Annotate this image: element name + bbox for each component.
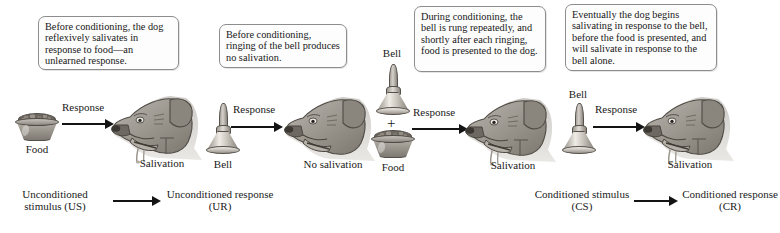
dog-head-icon-2 xyxy=(281,93,377,165)
bowl-rim xyxy=(15,118,59,126)
hand-bell-icon-3 xyxy=(376,64,410,116)
arrow-shaft xyxy=(62,123,105,125)
callout-box-2: Before conditioning, ringing of the bell… xyxy=(219,24,347,68)
bowl-rim xyxy=(371,135,415,143)
panel-3-stimulus-label-top: Bell xyxy=(383,47,401,59)
dog-head-salivating-icon-4 xyxy=(640,93,736,165)
panel-3-response-arrow xyxy=(412,124,468,134)
panel-2-stimulus-label: Bell xyxy=(214,158,232,170)
panel-1-response-arrow xyxy=(62,119,114,129)
arrow-shaft xyxy=(412,128,459,130)
callout-text-3: During conditioning, the bell is rung re… xyxy=(421,11,538,56)
panel-3-stimulus-label-bottom: Food xyxy=(382,161,405,173)
panel-4-response-arrow xyxy=(593,122,645,132)
bell-lip xyxy=(206,146,240,154)
dog-head-salivating-icon-1 xyxy=(108,92,204,164)
panel-4-outcome-label: Salivation xyxy=(668,158,713,170)
summary-unconditioned-arrow xyxy=(113,196,161,206)
hand-bell-icon-4 xyxy=(562,103,596,155)
callout-text-2: Before conditioning, ringing of the bell… xyxy=(226,29,340,63)
callout-box-1: Before conditioning, the dog reflexively… xyxy=(38,16,179,70)
arrow-head xyxy=(669,196,678,206)
panel-4-stimulus-label: Bell xyxy=(569,88,587,100)
panel-4-arrow-label: Response xyxy=(595,103,637,115)
panel-3-outcome-label: Salivation xyxy=(491,159,536,171)
dog-food-bowl-icon-3 xyxy=(370,130,416,160)
summary-conditioned-response: Conditioned response (CR) xyxy=(680,188,780,213)
callout-box-3: During conditioning, the bell is rung re… xyxy=(414,6,546,72)
panel-1-outcome-label: Salivation xyxy=(140,157,185,169)
panel-2-arrow-label: Response xyxy=(233,103,275,115)
summary-unconditioned-response: Unconditioned response (UR) xyxy=(165,188,275,213)
summary-conditioned-stimulus: Conditioned stimulus (CS) xyxy=(533,188,631,213)
bell-lip xyxy=(376,107,410,115)
panel-2-outcome-label: No salivation xyxy=(304,158,363,170)
dog-food-bowl-icon-1 xyxy=(14,113,60,143)
callout-text-1: Before conditioning, the dog reflexively… xyxy=(45,21,163,66)
arrow-head xyxy=(152,196,161,206)
bell-lip xyxy=(562,146,596,154)
summary-conditioned-arrow xyxy=(634,196,678,206)
panel-1-stimulus-label: Food xyxy=(26,143,49,155)
panel-3-plus-sign: + xyxy=(387,116,395,131)
arrow-shaft xyxy=(634,200,669,202)
panel-1-arrow-label: Response xyxy=(62,101,104,113)
panel-3-arrow-label: Response xyxy=(413,106,455,118)
arrow-shaft xyxy=(113,200,152,202)
callout-text-4: Eventually the dog begins salivating in … xyxy=(572,9,708,66)
summary-unconditioned-stimulus: Unconditioned stimulus (US) xyxy=(3,188,107,213)
dog-head-salivating-icon-3 xyxy=(462,94,558,166)
callout-box-4: Eventually the dog begins salivating in … xyxy=(565,4,717,71)
panel-2-response-arrow xyxy=(231,122,283,132)
arrow-shaft xyxy=(593,126,636,128)
arrow-shaft xyxy=(231,126,274,128)
